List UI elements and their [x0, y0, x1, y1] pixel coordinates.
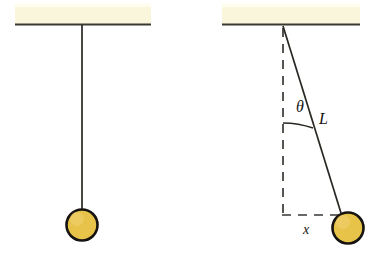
pendulum-figure: θ L x — [0, 0, 384, 261]
panel-pendulum-displaced: θ L x — [222, 3, 364, 244]
pendulum-bob-right-sheen — [336, 215, 350, 229]
pendulum-diagram-canvas: θ L x — [0, 0, 384, 261]
ceiling-slab-right-highlight — [222, 3, 360, 7]
length-label-L: L — [318, 110, 328, 127]
displacement-label-x: x — [302, 222, 310, 237]
pendulum-bob-left-sheen — [70, 212, 84, 226]
angle-label-theta: θ — [296, 98, 304, 115]
ceiling-slab-left-highlight — [15, 3, 151, 7]
angle-arc — [283, 123, 313, 128]
panel-pendulum-at-rest — [15, 3, 151, 241]
pendulum-string-right — [283, 26, 341, 213]
